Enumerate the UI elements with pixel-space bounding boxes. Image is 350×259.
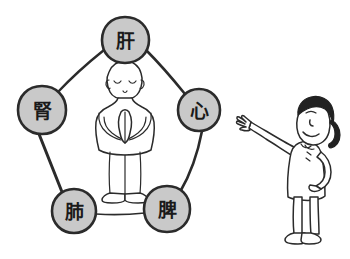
organ-node-liver[interactable]: 肝 bbox=[102, 17, 149, 63]
spleen-label: 脾 bbox=[157, 199, 177, 221]
person-raised-arm bbox=[249, 122, 294, 156]
organ-node-spleen[interactable]: 脾 bbox=[144, 186, 190, 232]
person-leg-left bbox=[293, 197, 302, 234]
lung-label: 肺 bbox=[65, 201, 84, 223]
organ-node-kidney[interactable]: 腎 bbox=[18, 86, 66, 134]
liver-label: 肝 bbox=[116, 30, 135, 52]
five-organ-pentagon-illustration: 肝 心 脾 肺 腎 bbox=[0, 0, 350, 259]
kidney-label: 腎 bbox=[33, 100, 52, 122]
edge-kidney-liver bbox=[57, 50, 104, 93]
heart-label: 心 bbox=[190, 100, 209, 122]
organ-node-lung[interactable]: 肺 bbox=[52, 189, 96, 233]
meditator-leg-left bbox=[109, 152, 110, 194]
edge-heart-spleen bbox=[180, 131, 202, 192]
person-torso bbox=[288, 142, 325, 201]
edge-lung-kidney bbox=[39, 134, 62, 192]
meditator-foot-left bbox=[102, 193, 125, 203]
person-leg-right bbox=[310, 197, 319, 234]
meditating-figure bbox=[96, 61, 155, 203]
person-open-hand bbox=[237, 116, 252, 131]
organ-node-heart[interactable]: 心 bbox=[178, 89, 220, 131]
illustration-canvas: 肝 心 脾 肺 腎 bbox=[0, 0, 350, 259]
edge-liver-heart bbox=[146, 50, 185, 94]
pointing-person bbox=[237, 96, 341, 244]
edge-spleen-lung bbox=[96, 213, 145, 215]
meditator-leg-right bbox=[140, 152, 141, 194]
meditator-head bbox=[107, 61, 142, 99]
